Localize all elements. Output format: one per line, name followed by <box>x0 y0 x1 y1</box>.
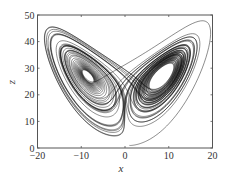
x-tick-label: 20 <box>208 150 218 161</box>
y-tick-label: 40 <box>25 36 35 47</box>
y-tick-label: 20 <box>25 89 35 100</box>
x-tick-label: −10 <box>73 150 89 161</box>
x-tick-label: 0 <box>123 150 128 161</box>
x-tick-label: 10 <box>164 150 174 161</box>
y-tick-label: 10 <box>25 116 35 127</box>
y-tick-label: 30 <box>25 63 35 74</box>
lorenz-chart: −20−1001020 01020304050 x z <box>0 0 228 185</box>
y-tick-label: 50 <box>25 10 35 21</box>
x-axis-label: x <box>118 162 124 174</box>
y-tick-label: 0 <box>30 143 35 154</box>
y-axis-label: z <box>5 79 17 85</box>
